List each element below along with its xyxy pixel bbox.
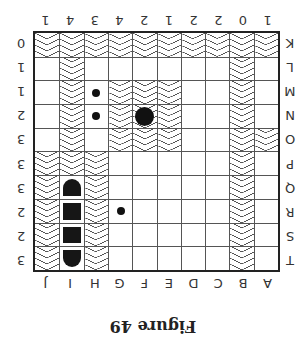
- grid-cell-JL: [35, 57, 59, 81]
- grid-cell-DM: [181, 80, 205, 104]
- grid-cell-JP: [35, 152, 59, 176]
- row-count-Q: 3: [9, 180, 33, 196]
- column-letter-E: E: [157, 275, 181, 291]
- row-count-N: 2: [9, 107, 33, 123]
- row-count-M: 1: [9, 83, 33, 99]
- grid-cell-JQ: [35, 175, 59, 199]
- grid-cell-DL: [181, 57, 205, 81]
- grid-cell-CQ: [205, 175, 229, 199]
- column-letter-J: J: [33, 275, 57, 291]
- column-count-B: 0: [231, 12, 255, 28]
- grid-cell-CL: [205, 57, 229, 81]
- grid-cell-EK: [157, 33, 181, 57]
- column-count-G: 4: [107, 12, 131, 28]
- grid-cell-GT: [108, 246, 132, 270]
- grid-cell-IK: [59, 33, 83, 57]
- grid-cell-DR: [181, 199, 205, 223]
- grid-cell-HQ: [84, 175, 108, 199]
- column-count-F: 2: [132, 12, 156, 28]
- grid-cell-ER: [157, 199, 181, 223]
- grid-cell-GQ: [108, 175, 132, 199]
- row-letter-N: N: [278, 107, 302, 123]
- grid-cell-AR: [254, 199, 278, 223]
- grid-cell-GL: [108, 57, 132, 81]
- grid-cell-BR: [229, 199, 253, 223]
- grid-cell-GS: [108, 223, 132, 247]
- grid-cell-IP: [59, 152, 83, 176]
- grid-cell-AO: [254, 128, 278, 152]
- grid-cell-GM: [108, 80, 132, 104]
- grid-cell-EP: [157, 152, 181, 176]
- grid-cell-BM: [229, 80, 253, 104]
- grid-cell-FR: [132, 199, 156, 223]
- ship-segment: [63, 250, 80, 267]
- grid-cell-BS: [229, 223, 253, 247]
- grid-cell-DN: [181, 104, 205, 128]
- grid-cell-FS: [132, 223, 156, 247]
- column-letter-D: D: [182, 275, 206, 291]
- row-letter-L: L: [278, 59, 302, 75]
- column-letter-B: B: [231, 275, 255, 291]
- grid-cell-FK: [132, 33, 156, 57]
- small-dot-marker: [117, 207, 125, 215]
- grid-cell-JK: [35, 33, 59, 57]
- grid-cell-FT: [132, 246, 156, 270]
- row-count-O: 3: [9, 131, 33, 147]
- grid-cell-FN: [132, 104, 156, 128]
- row-count-P: 3: [9, 156, 33, 172]
- grid-cell-DQ: [181, 175, 205, 199]
- grid-cell-AL: [254, 57, 278, 81]
- grid-cell-DO: [181, 128, 205, 152]
- grid-cell-FP: [132, 152, 156, 176]
- column-letter-G: G: [107, 275, 131, 291]
- grid-cell-HL: [84, 57, 108, 81]
- grid-cell-AT: [254, 246, 278, 270]
- grid-cell-JM: [35, 80, 59, 104]
- grid-cell-BQ: [229, 175, 253, 199]
- grid-cell-JO: [35, 128, 59, 152]
- grid-cell-IR: [59, 199, 83, 223]
- grid-cell-IS: [59, 223, 83, 247]
- row-letter-S: S: [278, 228, 302, 244]
- grid-cell-DP: [181, 152, 205, 176]
- grid-cell-CN: [205, 104, 229, 128]
- grid-cell-HK: [84, 33, 108, 57]
- grid-cell-IQ: [59, 175, 83, 199]
- column-count-I: 4: [58, 12, 82, 28]
- column-count-J: 1: [33, 12, 57, 28]
- figure-caption: Figure 49: [0, 317, 306, 336]
- grid-cell-EN: [157, 104, 181, 128]
- grid-cell-CT: [205, 246, 229, 270]
- row-letter-K: K: [278, 35, 302, 51]
- grid-cell-AK: [254, 33, 278, 57]
- grid-cell-AQ: [254, 175, 278, 199]
- grid-cell-EQ: [157, 175, 181, 199]
- grid-cell-BP: [229, 152, 253, 176]
- row-letter-M: M: [278, 83, 302, 99]
- grid-cell-GR: [108, 199, 132, 223]
- ship-segment: [63, 203, 80, 220]
- grid-cell-JN: [35, 104, 59, 128]
- column-count-C: 2: [206, 12, 230, 28]
- grid-cell-IT: [59, 246, 83, 270]
- grid-cell-JS: [35, 223, 59, 247]
- column-count-H: 3: [83, 12, 107, 28]
- grid-cell-CP: [205, 152, 229, 176]
- row-count-R: 2: [9, 204, 33, 220]
- row-letter-Q: Q: [278, 180, 302, 196]
- grid-cell-HO: [84, 128, 108, 152]
- grid-cell-CK: [205, 33, 229, 57]
- puzzle-grid: [33, 31, 280, 272]
- grid-cell-GO: [108, 128, 132, 152]
- grid-cell-CO: [205, 128, 229, 152]
- grid-cell-BO: [229, 128, 253, 152]
- column-letter-I: I: [58, 275, 82, 291]
- grid-cell-HM: [84, 80, 108, 104]
- grid-cell-HS: [84, 223, 108, 247]
- grid-cell-ES: [157, 223, 181, 247]
- grid-cell-AP: [254, 152, 278, 176]
- row-count-L: 1: [9, 59, 33, 75]
- ship-segment: [63, 227, 80, 244]
- small-dot-marker: [92, 89, 100, 97]
- small-dot-marker: [92, 112, 100, 120]
